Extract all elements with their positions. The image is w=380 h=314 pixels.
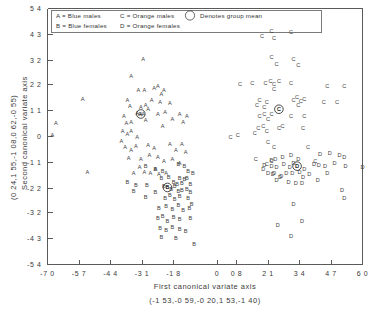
data-point-d: D [300, 180, 304, 186]
data-point-c: C [264, 80, 268, 86]
legend-item-c: C = Orange males [120, 12, 174, 19]
data-point-c: C [265, 128, 269, 134]
data-point-d: D [316, 177, 320, 183]
data-point-a: A [156, 83, 160, 89]
data-point-c: C [296, 62, 300, 68]
data-point-b: B [184, 228, 188, 234]
data-point-c: C [306, 144, 310, 150]
data-point-c: C [257, 113, 261, 119]
data-point-c: C [277, 78, 281, 84]
data-point-d: D [323, 163, 327, 169]
data-point-b: B [174, 235, 178, 241]
data-point-a: A [149, 170, 153, 176]
data-point-a: A [181, 119, 185, 125]
data-point-c: C [274, 61, 278, 67]
data-point-b: B [178, 226, 182, 232]
legend: A = Blue males B = Blue females C = Oran… [52, 11, 322, 33]
plot-axes [48, 9, 363, 265]
data-point-a: A [141, 56, 145, 62]
data-point-b: B [156, 215, 160, 221]
data-point-a: A [129, 73, 133, 79]
data-point-d: D [289, 233, 293, 239]
data-point-b: B [168, 192, 172, 198]
x-tick-label: 2 1 [262, 270, 274, 277]
y-tick-label: 4 3 [30, 31, 42, 38]
data-point-a: A [122, 113, 126, 119]
x-tick-label: 4 7 [325, 270, 337, 277]
data-point-a: A [132, 170, 136, 176]
data-point-b: B [160, 234, 164, 240]
y-tick-label: 2 2 [30, 81, 42, 88]
data-point-d: D [261, 166, 265, 172]
data-point-b: B [153, 166, 157, 172]
data-point-d: D [291, 201, 295, 207]
data-point-c: C [291, 56, 295, 62]
data-point-b: B [145, 182, 149, 188]
data-point-d: D [279, 173, 283, 179]
y-axis-title: Second canonical variate axis [20, 76, 29, 190]
data-point-a: A [185, 113, 189, 119]
data-point-a: A [180, 141, 184, 147]
data-point-a: A [152, 145, 156, 151]
data-point-b: B [189, 181, 193, 187]
data-point-d: D [312, 161, 316, 167]
data-point-a: A [123, 144, 127, 150]
data-point-a: A [150, 97, 154, 103]
data-point-a: A [81, 96, 85, 102]
legend-item-mean: Denotes group mean [200, 12, 263, 19]
data-point-a: A [129, 147, 133, 153]
data-point-d: D [270, 163, 274, 169]
data-point-a: A [86, 169, 90, 175]
data-point-b: B [144, 194, 148, 200]
data-point-d: D [337, 152, 341, 158]
data-point-a: A [147, 152, 151, 158]
data-point-c: C [265, 99, 269, 105]
data-point-b: B [164, 203, 168, 209]
data-point-a: A [50, 132, 54, 138]
data-point-d: D [282, 161, 286, 167]
data-point-a: A [124, 120, 128, 126]
data-point-c: C [342, 83, 346, 89]
data-point-b: B [170, 206, 174, 212]
data-point-c: C [302, 96, 306, 102]
data-point-d: D [271, 171, 275, 177]
data-point-d: D [342, 154, 346, 160]
y-tick-label: 3 2 [30, 57, 42, 64]
data-point-b: B [192, 241, 196, 247]
data-point-a: A [129, 119, 133, 125]
scatter-plot-figure: 5 44 33 22 21 10-1 1-2 2-3 2-4 3-5 4 -7 … [0, 0, 380, 314]
y-tick-label: 1 1 [30, 107, 42, 114]
data-point-a: A [156, 111, 160, 117]
y-tick-label: -2 2 [27, 185, 41, 192]
data-point-d: D [340, 187, 344, 193]
data-point-d: D [290, 170, 294, 176]
data-point-a: A [144, 117, 148, 123]
data-point-c: C [236, 132, 240, 138]
data-point-a: A [170, 116, 174, 122]
data-point-d: D [325, 170, 329, 176]
data-point-a: A [139, 156, 143, 162]
y-tick-label: -1 1 [27, 159, 41, 166]
data-point-c: C [250, 80, 254, 86]
data-point-d: D [273, 156, 277, 162]
x-axis-subtitle: (-1 53,-0 59,-0 20,1 53,-1 40) [149, 296, 260, 305]
data-point-b: B [190, 201, 194, 207]
data-point-c: C [301, 125, 305, 131]
data-point-b: B [167, 174, 171, 180]
data-point-a: A [128, 103, 132, 109]
data-point-d: D [281, 154, 285, 160]
data-point-b: B [153, 189, 157, 195]
group-mean-label-c: C [277, 106, 281, 112]
data-point-d: D [360, 164, 364, 170]
data-point-b: B [181, 207, 185, 213]
data-point-b: B [191, 170, 195, 176]
data-point-a: A [54, 120, 58, 126]
data-point-a: A [143, 87, 147, 93]
data-point-a: A [162, 87, 166, 93]
x-tick-label: 0 8 [231, 270, 243, 277]
y-tick-label: 5 4 [30, 5, 42, 12]
data-point-a: A [158, 99, 162, 105]
data-point-a: A [161, 123, 165, 129]
data-point-c: C [254, 156, 258, 162]
legend-item-a: A = Blue males [56, 12, 101, 19]
